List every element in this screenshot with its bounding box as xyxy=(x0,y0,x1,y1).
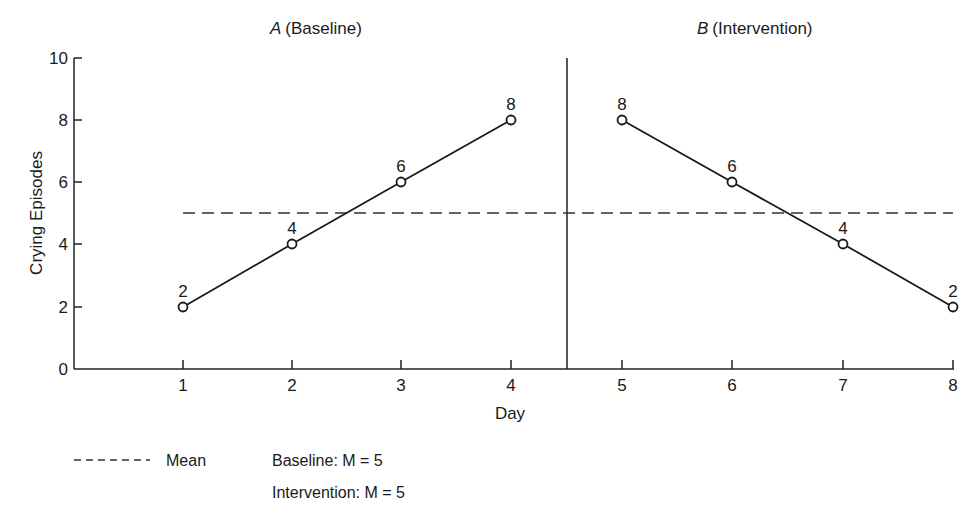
data-label: 8 xyxy=(506,95,515,114)
y-tick-10: 10 xyxy=(49,49,68,68)
data-point xyxy=(728,178,737,187)
y-tick-6: 6 xyxy=(59,173,68,192)
data-label: 2 xyxy=(948,282,957,301)
data-label: 2 xyxy=(178,282,187,301)
x-tick-8: 8 xyxy=(948,376,957,395)
data-point xyxy=(949,303,958,312)
data-point xyxy=(618,116,627,125)
y-tick-0: 0 xyxy=(59,360,68,379)
data-point xyxy=(839,240,848,249)
y-axis: 10 8 6 4 2 0 Crying Episodes xyxy=(27,49,82,379)
x-tick-6: 6 xyxy=(727,376,736,395)
x-tick-7: 7 xyxy=(838,376,847,395)
single-case-design-chart: A(Baseline) B(Intervention) 10 8 6 4 2 0… xyxy=(0,0,977,521)
data-point xyxy=(288,240,297,249)
x-tick-5: 5 xyxy=(617,376,626,395)
x-tick-1: 1 xyxy=(178,376,187,395)
y-tick-4: 4 xyxy=(59,235,68,254)
x-axis: 1 2 3 4 5 6 7 8 Day xyxy=(74,360,958,423)
data-point xyxy=(507,116,516,125)
x-tick-4: 4 xyxy=(506,376,515,395)
data-label: 6 xyxy=(727,157,736,176)
baseline-series: 2 4 6 8 xyxy=(178,95,515,312)
data-label: 4 xyxy=(287,219,296,238)
x-tick-3: 3 xyxy=(396,376,405,395)
legend-intervention-mean: Intervention: M = 5 xyxy=(272,484,405,501)
y-tick-8: 8 xyxy=(59,111,68,130)
data-label: 8 xyxy=(617,95,626,114)
y-axis-label: Crying Episodes xyxy=(27,151,46,275)
y-tick-2: 2 xyxy=(59,298,68,317)
legend: Mean Baseline: M = 5 Intervention: M = 5 xyxy=(74,452,405,501)
legend-mean-label: Mean xyxy=(166,452,206,469)
x-axis-label: Day xyxy=(495,404,526,423)
x-tick-2: 2 xyxy=(287,376,296,395)
data-label: 4 xyxy=(838,219,847,238)
legend-baseline-mean: Baseline: M = 5 xyxy=(272,452,383,469)
data-point xyxy=(397,178,406,187)
phase-b-title: B(Intervention) xyxy=(697,19,813,38)
phase-a-title: A(Baseline) xyxy=(269,19,362,38)
data-label: 6 xyxy=(396,157,405,176)
intervention-series: 8 6 4 2 xyxy=(617,95,957,312)
data-point xyxy=(179,303,188,312)
